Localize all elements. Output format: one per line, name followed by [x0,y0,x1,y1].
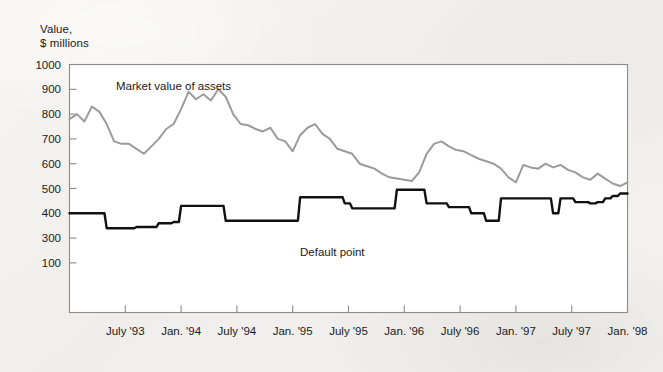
y-tick-label: 1000 [19,59,61,71]
series-label-market-value: Market value of assets [116,80,231,92]
x-tick-label: July '95 [329,325,368,337]
x-tick-label: July '93 [106,325,145,337]
y-tick-label: 100 [19,257,61,269]
x-tick-label: Jan. '96 [384,325,424,337]
chart-canvas [0,0,663,372]
y-tick-label: 700 [19,133,61,145]
plot-area: 1000900800700600500400300100July '93Jan.… [0,0,663,372]
series-label-default-point: Default point [300,246,365,258]
x-tick-label: Jan. '94 [161,325,201,337]
x-tick-label: July '96 [441,325,480,337]
y-tick-label: 600 [19,158,61,170]
chart-figure: Value, $ millions 1000900800700600500400… [0,0,663,372]
x-tick-label: July '97 [552,325,591,337]
y-tick-label: 300 [19,232,61,244]
x-tick-label: Jan. '98 [608,325,648,337]
x-tick-label: July '94 [218,325,257,337]
x-tick-label: Jan. '95 [273,325,313,337]
y-tick-label: 400 [19,207,61,219]
y-tick-label: 500 [19,183,61,195]
y-tick-label: 900 [19,83,61,95]
y-tick-label: 800 [19,108,61,120]
x-tick-label: Jan. '97 [496,325,536,337]
